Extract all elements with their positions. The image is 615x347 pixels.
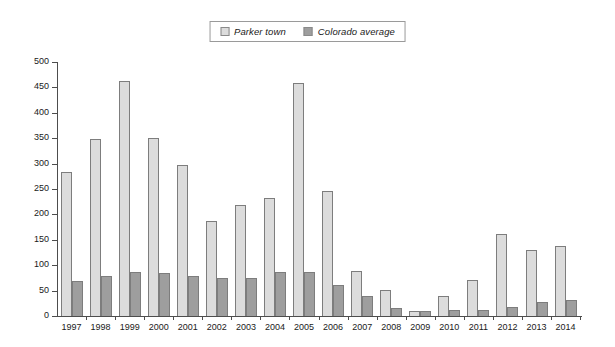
x-axis-tick-label-2005: 2005: [290, 322, 319, 332]
x-axis-tick: [289, 316, 290, 320]
bar-colorado-average-1999: [130, 272, 141, 316]
x-axis-tick-label-2008: 2008: [377, 322, 406, 332]
bar-colorado-average-2005: [304, 272, 315, 316]
bar-colorado-average-2010: [449, 310, 460, 316]
bar-parker-town-2005: [293, 83, 304, 316]
legend-item-colorado-average: Colorado average: [304, 26, 395, 37]
x-axis-tick-label-2007: 2007: [348, 322, 377, 332]
y-axis-tick-label: 450: [34, 81, 49, 91]
bar-group: [144, 62, 173, 316]
y-axis-tick-label: 150: [34, 234, 49, 244]
bar-group: [522, 62, 551, 316]
x-axis-tick: [493, 316, 494, 320]
bar-colorado-average-1998: [101, 276, 112, 316]
chart-page: Parker town Colorado average 05010015020…: [0, 0, 615, 347]
bar-group: [348, 62, 377, 316]
bar-group: [115, 62, 144, 316]
x-axis-tick-label-1998: 1998: [86, 322, 115, 332]
x-axis-tick-label-2010: 2010: [435, 322, 464, 332]
bar-group: [464, 62, 493, 316]
bar-parker-town-2003: [235, 205, 246, 316]
bar-colorado-average-2004: [275, 272, 286, 316]
bar-group: [377, 62, 406, 316]
x-axis-tick-label-2002: 2002: [202, 322, 231, 332]
legend-swatch-icon-parker-town: [220, 27, 229, 36]
x-axis-tick: [464, 316, 465, 320]
x-axis-tick-label-1997: 1997: [57, 322, 86, 332]
bar-parker-town-2001: [177, 165, 188, 316]
x-axis-tick-label-1999: 1999: [115, 322, 144, 332]
legend-item-parker-town: Parker town: [220, 26, 286, 37]
x-axis-tick: [435, 316, 436, 320]
bar-parker-town-1999: [119, 81, 130, 316]
bar-parker-town-2013: [526, 250, 537, 316]
bar-colorado-average-2011: [478, 310, 489, 316]
x-axis-tick-label-2009: 2009: [406, 322, 435, 332]
x-axis-tick: [115, 316, 116, 320]
x-axis-tick-label-2013: 2013: [522, 322, 551, 332]
bar-colorado-average-2001: [188, 276, 199, 316]
bar-colorado-average-2002: [217, 278, 228, 316]
bar-group: [86, 62, 115, 316]
bar-group: [435, 62, 464, 316]
x-axis-tick: [377, 316, 378, 320]
bar-parker-town-2002: [206, 221, 217, 317]
x-axis-tick-label-2003: 2003: [231, 322, 260, 332]
bar-colorado-average-2008: [391, 308, 402, 316]
bar-group: [173, 62, 202, 316]
bar-colorado-average-2007: [362, 296, 373, 316]
x-axis-tick: [319, 316, 320, 320]
x-axis-tick: [348, 316, 349, 320]
legend-swatch-icon-colorado-average: [304, 27, 313, 36]
bar-parker-town-2009: [409, 311, 420, 316]
legend-label-parker-town: Parker town: [234, 26, 286, 37]
x-axis-tick: [406, 316, 407, 320]
x-axis-tick-label-2001: 2001: [173, 322, 202, 332]
bar-parker-town-2010: [438, 296, 449, 316]
x-axis-tick-label-2004: 2004: [260, 322, 289, 332]
x-axis-tick: [580, 316, 581, 320]
bar-colorado-average-2003: [246, 278, 257, 316]
bar-group: [202, 62, 231, 316]
y-axis-tick: [52, 316, 57, 317]
bar-colorado-average-2009: [420, 311, 431, 316]
bar-colorado-average-2006: [333, 285, 344, 316]
y-axis-tick-label: 100: [34, 259, 49, 269]
bar-group: [551, 62, 580, 316]
bar-parker-town-2000: [148, 138, 159, 316]
bar-parker-town-2004: [264, 198, 275, 316]
x-axis-tick-label-2012: 2012: [493, 322, 522, 332]
bar-colorado-average-1997: [72, 281, 83, 316]
bar-group: [231, 62, 260, 316]
x-axis-tick: [173, 316, 174, 320]
y-axis-tick-label: 400: [34, 107, 49, 117]
x-axis-tick: [231, 316, 232, 320]
y-axis-tick-label: 200: [34, 208, 49, 218]
y-axis-tick-label: 0: [44, 310, 49, 320]
bar-groups: [57, 62, 580, 316]
bar-parker-town-2006: [322, 191, 333, 316]
bar-group: [57, 62, 86, 316]
bar-parker-town-1998: [90, 139, 101, 316]
x-axis-tick: [260, 316, 261, 320]
bar-parker-town-2011: [467, 280, 478, 316]
x-axis-tick: [202, 316, 203, 320]
bar-parker-town-1997: [61, 172, 72, 316]
bar-parker-town-2007: [351, 271, 362, 316]
y-axis-tick-label: 250: [34, 183, 49, 193]
bar-colorado-average-2000: [159, 273, 170, 316]
x-axis-tick: [86, 316, 87, 320]
chart-legend: Parker town Colorado average: [209, 21, 406, 42]
x-axis-tick-label-2011: 2011: [464, 322, 493, 332]
y-axis-tick-label: 300: [34, 158, 49, 168]
bar-colorado-average-2014: [566, 300, 577, 316]
x-axis-tick-label-2014: 2014: [551, 322, 580, 332]
y-axis-tick-label: 50: [39, 285, 49, 295]
x-axis-tick: [522, 316, 523, 320]
x-axis-tick: [551, 316, 552, 320]
bar-parker-town-2012: [496, 234, 507, 316]
bar-parker-town-2008: [380, 290, 391, 316]
legend-label-colorado-average: Colorado average: [318, 26, 395, 37]
x-axis-tick-label-2006: 2006: [319, 322, 348, 332]
bar-group: [290, 62, 319, 316]
